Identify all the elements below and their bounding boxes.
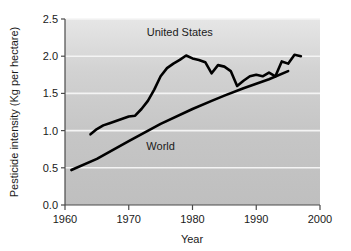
x-tick-label: 1970 — [117, 213, 141, 225]
y-tick-label: 2.5 — [43, 13, 58, 25]
y-axis-title: Pesticide intensity (Kg per hectare) — [8, 27, 20, 198]
x-tick-label: 1960 — [53, 213, 77, 225]
x-tick-label: 1980 — [180, 213, 204, 225]
series-label-united-states: United States — [147, 26, 214, 38]
plot-background — [65, 19, 320, 205]
chart-canvas: 0.00.51.01.52.02.5 19601970198019902000 … — [0, 0, 351, 251]
y-tick-label: 0.5 — [43, 162, 58, 174]
x-tick-label: 1990 — [244, 213, 268, 225]
y-tick-label: 0.0 — [43, 199, 58, 211]
pesticide-intensity-chart: 0.00.51.01.52.02.5 19601970198019902000 … — [0, 0, 351, 251]
x-axis-title: Year — [181, 233, 204, 245]
y-tick-label: 1.0 — [43, 125, 58, 137]
y-tick-label: 2.0 — [43, 50, 58, 62]
x-axis-ticks: 19601970198019902000 — [53, 205, 332, 225]
y-axis-ticks: 0.00.51.01.52.02.5 — [43, 13, 65, 211]
y-tick-label: 1.5 — [43, 87, 58, 99]
series-label-world: World — [146, 140, 175, 152]
x-tick-label: 2000 — [308, 213, 332, 225]
